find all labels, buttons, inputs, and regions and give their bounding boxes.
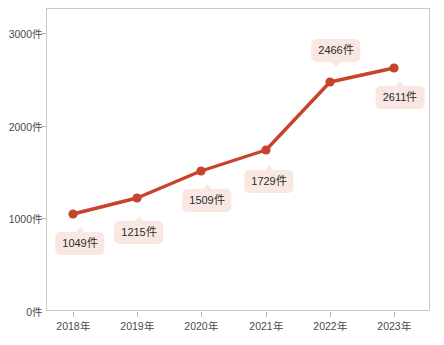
x-tick-mark-2020 — [201, 312, 202, 317]
y-axis-labels: 3000件 2000件 1000件 0件 — [0, 0, 42, 345]
x-tick-mark-2023 — [394, 312, 395, 317]
y-tick-label-2000: 2000件 — [9, 119, 42, 134]
x-tick-label-2020: 2020年 — [184, 318, 217, 333]
value-label-2022: 2466件 — [311, 39, 360, 62]
x-tick-mark-2021 — [266, 312, 267, 317]
x-tick-mark-2019 — [137, 312, 138, 317]
x-tick-label-2021: 2021年 — [249, 318, 282, 333]
x-tick-label-2018: 2018年 — [56, 318, 89, 333]
value-label-2021: 1729件 — [244, 170, 293, 193]
value-label-2018: 1049件 — [55, 232, 104, 255]
x-tick-label-2022: 2022年 — [313, 318, 346, 333]
value-label-2023: 2611件 — [376, 86, 425, 109]
line-chart: 3000件 2000件 1000件 0件 2018年 2019年 2020年 2… — [0, 0, 444, 345]
plot-area — [46, 8, 430, 311]
y-tick-label-3000: 3000件 — [9, 26, 42, 41]
x-tick-label-2019: 2019年 — [120, 318, 153, 333]
value-label-2020: 1509件 — [182, 189, 231, 212]
value-label-2019: 1215件 — [114, 221, 163, 244]
y-tick-label-0: 0件 — [26, 304, 42, 319]
x-tick-mark-2018 — [73, 312, 74, 317]
y-tick-label-1000: 1000件 — [9, 211, 42, 226]
x-tick-label-2023: 2023年 — [377, 318, 410, 333]
x-tick-mark-2022 — [330, 312, 331, 317]
